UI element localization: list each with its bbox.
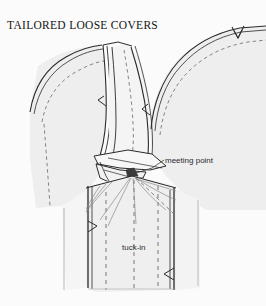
page-title: TAILORED LOOSE COVERS xyxy=(7,19,158,31)
callout-label-tuck-in: tuck-in xyxy=(122,243,146,252)
right-back-panel-fill xyxy=(150,27,266,210)
left-arm-panel-fill xyxy=(30,46,106,208)
left-skirt-panel xyxy=(62,190,86,290)
figure-page: TAILORED LOOSE COVERS xyxy=(0,0,266,306)
upper-valley-fold xyxy=(103,42,132,46)
loose-cover-illustration xyxy=(0,0,266,306)
callout-label-meeting-point: meeting point xyxy=(165,156,213,165)
right-lower-panel xyxy=(176,190,200,290)
